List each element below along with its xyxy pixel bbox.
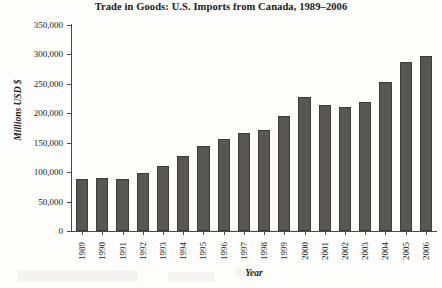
x-axis-tick-label: 2005: [401, 236, 411, 266]
x-axis-tick-label-text: 1997: [239, 236, 249, 266]
bar: [258, 130, 270, 231]
bar: [339, 107, 351, 231]
x-axis-tick-mark: [102, 232, 103, 235]
y-axis-tick-mark: [67, 231, 72, 232]
y-axis-tick: 200,000: [0, 107, 72, 119]
x-axis-tick-label: 1999: [279, 236, 289, 266]
y-axis-tick-label: 100,000: [34, 166, 63, 178]
y-axis-tick: 150,000: [0, 137, 72, 149]
x-axis-tick-label: 2000: [300, 236, 310, 266]
x-axis-tick-label-text: 1990: [97, 236, 107, 266]
y-axis-tick-label: 350,000: [34, 19, 63, 31]
y-axis-tick-label: 250,000: [34, 78, 63, 90]
x-axis-tick-mark: [406, 232, 407, 235]
x-axis-tick-label: 1990: [97, 236, 107, 266]
x-axis-tick-mark: [224, 232, 225, 235]
scan-artifact: [18, 270, 138, 282]
x-axis-tick-label: 1995: [198, 236, 208, 266]
x-axis-tick-label-text: 1995: [198, 236, 208, 266]
bar: [238, 133, 250, 231]
y-axis-tick-label: 150,000: [34, 137, 63, 149]
x-axis-tick-mark: [203, 232, 204, 235]
y-axis-tick-label: 200,000: [34, 107, 63, 119]
x-axis-tick-mark: [305, 232, 306, 235]
bar: [298, 97, 310, 231]
x-axis-tick-mark: [284, 232, 285, 235]
y-axis-tick-label: 300,000: [34, 48, 63, 60]
y-axis-tick: 300,000: [0, 48, 72, 60]
bar: [319, 105, 331, 231]
x-axis-tick-mark: [183, 232, 184, 235]
plot-area: [72, 25, 436, 231]
scan-artifact: [168, 272, 214, 282]
x-axis-tick-label-text: 1996: [219, 236, 229, 266]
bar: [379, 82, 391, 231]
x-axis-tick-label: 2002: [340, 236, 350, 266]
x-axis-tick-label-text: 2000: [300, 236, 310, 266]
chart-title: Trade in Goods: U.S. Imports from Canada…: [0, 1, 442, 12]
bar: [359, 102, 371, 231]
x-axis-line: [71, 231, 437, 232]
y-axis-tick: 100,000: [0, 166, 72, 178]
x-axis-tick-label: 2006: [421, 236, 431, 266]
y-axis-tick-label: 0: [59, 225, 64, 237]
x-axis-tick-label-text: 2003: [360, 236, 370, 266]
y-axis-tick: 250,000: [0, 78, 72, 90]
bar: [218, 139, 230, 231]
bar: [278, 116, 290, 231]
x-axis-tick-label: 2003: [360, 236, 370, 266]
x-axis-tick-mark: [82, 232, 83, 235]
x-axis-tick-label: 1992: [138, 236, 148, 266]
bar: [76, 179, 88, 231]
bar: [420, 56, 432, 231]
x-axis-tick-label: 2001: [320, 236, 330, 266]
x-axis-tick-label-text: 1992: [138, 236, 148, 266]
x-axis-tick-mark: [426, 232, 427, 235]
x-axis-tick-mark: [365, 232, 366, 235]
bar: [197, 146, 209, 231]
x-axis-tick-label-text: 2002: [340, 236, 350, 266]
x-axis-tick-mark: [143, 232, 144, 235]
x-axis-tick-label: 1997: [239, 236, 249, 266]
x-axis-tick-label: 2004: [380, 236, 390, 266]
bar: [177, 156, 189, 231]
x-axis-tick-label: 1991: [118, 236, 128, 266]
x-axis-tick-label-text: 1994: [178, 236, 188, 266]
x-axis-tick-label: 1989: [77, 236, 87, 266]
y-axis-tick: 50,000: [0, 196, 72, 208]
x-axis-tick-mark: [244, 232, 245, 235]
x-axis-tick-label: 1993: [158, 236, 168, 266]
x-axis-tick-label-text: 1991: [118, 236, 128, 266]
x-axis-tick-label: 1994: [178, 236, 188, 266]
x-axis-tick-label-text: 1998: [259, 236, 269, 266]
x-axis-tick-label-text: 2001: [320, 236, 330, 266]
y-axis-tick: 0: [0, 225, 72, 237]
bar: [400, 62, 412, 231]
x-axis-tick-mark: [385, 232, 386, 235]
scan-artifact: [236, 268, 244, 277]
bar: [96, 178, 108, 231]
x-axis-tick-label-text: 2006: [421, 236, 431, 266]
x-axis-tick-label-text: 1999: [279, 236, 289, 266]
x-axis-tick-label: 1996: [219, 236, 229, 266]
x-axis-tick-label-text: 1993: [158, 236, 168, 266]
x-axis-tick-label: 1998: [259, 236, 269, 266]
x-axis-tick-mark: [325, 232, 326, 235]
bar: [116, 179, 128, 231]
bar: [157, 166, 169, 231]
x-axis-tick-mark: [123, 232, 124, 235]
x-axis-tick-mark: [345, 232, 346, 235]
bar: [137, 173, 149, 231]
x-axis-tick-mark: [163, 232, 164, 235]
x-axis-tick-label-text: 2004: [380, 236, 390, 266]
chart-screenshot: Trade in Goods: U.S. Imports from Canada…: [0, 0, 442, 288]
x-axis-tick-label-text: 2005: [401, 236, 411, 266]
y-axis-tick: 350,000: [0, 19, 72, 31]
x-axis-tick-label-text: 1989: [77, 236, 87, 266]
y-axis-tick-label: 50,000: [38, 196, 63, 208]
x-axis-tick-mark: [264, 232, 265, 235]
